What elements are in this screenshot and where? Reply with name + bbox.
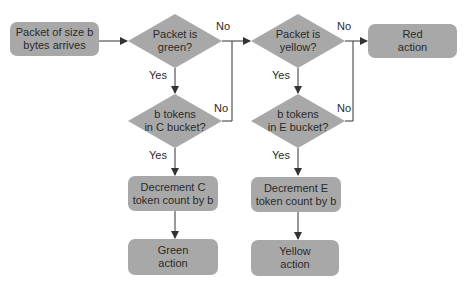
decrement-c-node: Decrement C token count by b <box>128 176 218 211</box>
decrement-c-line2: token count by b <box>133 194 214 207</box>
yellow-check-text: Packet is yellow? <box>258 27 338 55</box>
decrement-c-line1: Decrement C <box>133 181 214 194</box>
decrement-e-node: Decrement E token count by b <box>251 177 341 212</box>
decrement-e-line1: Decrement E <box>256 182 337 195</box>
yellow-check-line1: Packet is <box>276 28 321 41</box>
e-bucket-yes-label: Yes <box>272 149 290 161</box>
yellow-action-line1: Yellow <box>279 245 310 258</box>
c-bucket-line1: b tokens <box>144 108 205 121</box>
start-line1: Packet of size b <box>16 26 94 39</box>
c-bucket-yes-label: Yes <box>149 149 167 161</box>
green-check-text: Packet is green? <box>135 27 215 55</box>
green-action-node: Green action <box>128 239 218 275</box>
e-bucket-line2: in E bucket? <box>268 121 329 134</box>
green-check-line1: Packet is <box>153 28 198 41</box>
green-no-label: No <box>216 20 230 32</box>
yellow-check-line2: yellow? <box>276 41 321 54</box>
start-line2: bytes arrives <box>16 39 94 52</box>
red-action-node: Red action <box>368 24 457 58</box>
yellow-yes-label: Yes <box>272 69 290 81</box>
green-action-line2: action <box>158 257 189 270</box>
c-bucket-line2: in C bucket? <box>144 121 205 134</box>
c-bucket-check-text: b tokens in C bucket? <box>130 107 220 135</box>
red-action-line1: Red <box>398 28 427 41</box>
green-check-line2: green? <box>153 41 198 54</box>
yellow-action-node: Yellow action <box>251 240 339 276</box>
green-action-line1: Green <box>158 244 189 257</box>
yellow-no-label: No <box>337 20 351 32</box>
c-bucket-no-label: No <box>214 102 228 114</box>
e-bucket-line1: b tokens <box>268 108 329 121</box>
start-packet-arrives-node: Packet of size b bytes arrives <box>10 22 99 56</box>
decrement-e-line2: token count by b <box>256 195 337 208</box>
yellow-action-line2: action <box>279 258 310 271</box>
e-bucket-check-text: b tokens in E bucket? <box>253 107 343 135</box>
red-action-line2: action <box>398 41 427 54</box>
green-yes-label: Yes <box>149 69 167 81</box>
e-bucket-no-label: No <box>337 102 351 114</box>
